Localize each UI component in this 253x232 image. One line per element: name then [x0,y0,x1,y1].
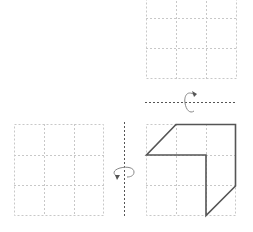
bottom-right-grid [146,124,236,216]
horizontal-axis [145,91,237,112]
vertical-axis [114,122,134,218]
top-grid [146,0,237,79]
bottom-left-grid [14,124,104,216]
diagram-canvas [0,0,253,232]
rotate-arrow-icon [185,91,197,112]
folded-shape [147,125,236,216]
